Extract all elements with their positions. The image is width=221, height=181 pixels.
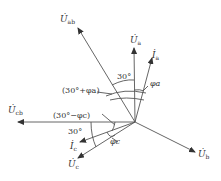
phasor-U-b	[135, 122, 195, 152]
arc-bottom-30	[91, 122, 96, 147]
label-I-a: İa	[152, 51, 159, 61]
label-U-a: U̇a	[130, 36, 141, 46]
angle-label-30-bottom: 30°	[68, 128, 82, 136]
arc-upper-inner	[110, 98, 144, 100]
phasor-diagram: U̇ab U̇a İa U̇cb İc U̇c U̇b 30° φa (30°+…	[0, 0, 221, 181]
arc-phi-c	[107, 132, 115, 136]
label-U-c: U̇c	[68, 160, 79, 170]
label-I-c: İc	[70, 142, 77, 152]
leader-30-minus-phi-c	[102, 114, 115, 125]
label-U-ab: U̇ab	[60, 15, 75, 25]
label-U-b: U̇b	[198, 150, 209, 160]
angle-label-phi-c: φc	[110, 138, 120, 146]
angle-label-phi-a: φa	[150, 80, 160, 88]
arc-30-plus-phi-a	[106, 91, 146, 96]
arc-phi-a	[134, 90, 144, 91]
label-U-cb: U̇cb	[8, 106, 23, 116]
angle-label-30-plus-phi-a: (30°+φa)	[62, 87, 100, 95]
phasor-lines	[0, 0, 221, 181]
phasor-U-a	[134, 48, 135, 122]
angle-label-30-minus-phi-c: (30°−φc)	[53, 112, 90, 120]
angle-label-30-top: 30°	[117, 73, 131, 81]
